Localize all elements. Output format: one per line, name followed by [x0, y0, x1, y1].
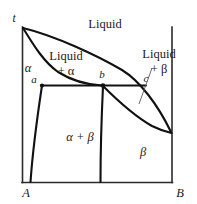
- axis-label-temperature: t: [12, 12, 16, 24]
- alpha-solvus-curve: [31, 86, 43, 183]
- point-label-b: b: [99, 68, 105, 80]
- region-label-liquid: Liquid: [88, 17, 122, 31]
- point-a-marker: [40, 83, 44, 87]
- axis-label-b: B: [176, 186, 184, 200]
- region-label-liquid-beta-line1: Liquid: [142, 47, 176, 61]
- point-label-c: c: [144, 72, 149, 84]
- region-label-liquid-alpha-line1: Liquid: [49, 49, 83, 63]
- phase-diagram-figure: t A B Liquid Liquid + α Liquid + β α β α…: [0, 0, 197, 204]
- region-label-beta: β: [139, 145, 147, 159]
- region-label-liquid-alpha-line2: + α: [58, 64, 75, 78]
- beta-solidus-curve: [103, 86, 172, 133]
- liquidus-curve-main: [23, 28, 171, 132]
- point-b-marker: [101, 83, 106, 88]
- axis-label-a: A: [21, 186, 30, 200]
- region-label-liquid-beta-line2: + β: [151, 62, 168, 76]
- region-label-alpha-beta: α + β: [66, 130, 94, 144]
- beta-solvus-curve: [101, 86, 104, 182]
- phase-diagram-svg: t A B Liquid Liquid + α Liquid + β α β α…: [0, 0, 197, 204]
- point-label-a: a: [31, 73, 37, 85]
